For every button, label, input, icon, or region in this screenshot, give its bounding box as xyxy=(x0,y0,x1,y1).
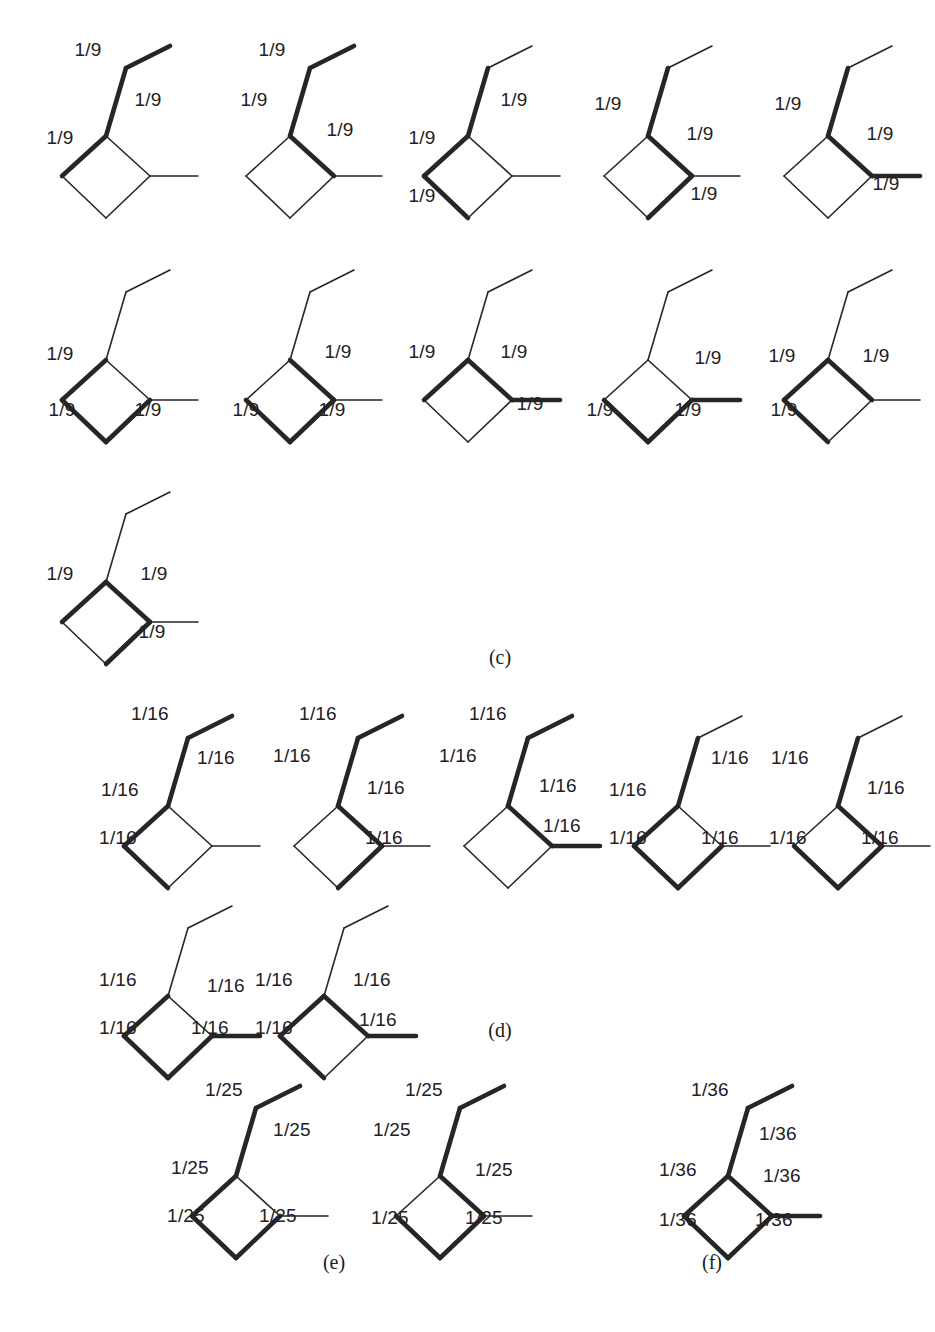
bond-ring_ll-thin xyxy=(464,846,508,888)
structure-c-9: 1/91/91/9 xyxy=(572,252,750,452)
bond-weight-label: 1/16 xyxy=(439,745,477,767)
bond-weight-label: 1/36 xyxy=(763,1165,801,1187)
bond-ring_ur-thin xyxy=(106,360,150,400)
bond-weight-label: 1/16 xyxy=(469,703,507,725)
bond-weight-label: 1/36 xyxy=(659,1159,697,1181)
bond-weight-label: 1/9 xyxy=(768,345,795,367)
bond-ring_lr-thin xyxy=(468,176,512,218)
bond-methyl-bold xyxy=(310,46,354,68)
bond-methyl-thin xyxy=(858,716,902,738)
bond-weight-label: 1/16 xyxy=(131,703,169,725)
bond-weight-label: 1/9 xyxy=(408,185,435,207)
bond-ring_ur-thin xyxy=(468,136,512,176)
bond-weight-label: 1/9 xyxy=(134,399,161,421)
structure-d-2: 1/161/161/161/16 xyxy=(262,698,440,898)
bond-weight-label: 1/36 xyxy=(659,1209,697,1231)
bond-methyl-thin xyxy=(698,716,742,738)
bond-weight-label: 1/36 xyxy=(755,1209,793,1231)
bond-ring_ll-bold xyxy=(634,846,678,888)
bond-ring_ur-bold xyxy=(106,582,150,622)
section-tag-e: (e) xyxy=(323,1251,345,1274)
bond-weight-label: 1/16 xyxy=(609,779,647,801)
bond-weight-label: 1/16 xyxy=(867,777,905,799)
bond-ring_ll-bold xyxy=(794,846,838,888)
bond-weight-label: 1/9 xyxy=(140,563,167,585)
bond-weight-label: 1/16 xyxy=(359,1009,397,1031)
bond-ring_ll-bold xyxy=(124,846,168,888)
skeleton-diagram xyxy=(572,252,750,452)
bond-weight-label: 1/25 xyxy=(273,1119,311,1141)
bond-ring_ul-thin xyxy=(604,136,648,176)
bond-ch2-thin xyxy=(290,292,310,360)
bond-weight-label: 1/9 xyxy=(686,123,713,145)
bond-weight-label: 1/9 xyxy=(48,399,75,421)
bond-ring_ul-thin xyxy=(464,806,508,846)
bond-weight-label: 1/9 xyxy=(774,93,801,115)
bond-weight-label: 1/16 xyxy=(861,827,899,849)
bond-methyl-thin xyxy=(344,906,388,928)
bond-ring_ur-thin xyxy=(168,806,212,846)
bond-ch2-bold xyxy=(838,738,858,806)
bond-ch2-bold xyxy=(168,738,188,806)
skeleton-diagram xyxy=(762,698,935,898)
bond-methyl-thin xyxy=(126,270,170,292)
bond-ring_lr-thin xyxy=(828,400,872,442)
bond-weight-label: 1/16 xyxy=(207,975,245,997)
bond-ch2-bold xyxy=(648,68,668,136)
structure-c-1: 1/91/91/9 xyxy=(30,28,208,228)
bond-weight-label: 1/9 xyxy=(232,399,259,421)
bond-ring_ll-thin xyxy=(62,176,106,218)
bond-ring_lr-thin xyxy=(508,846,552,888)
structure-d-5: 1/161/161/161/16 xyxy=(762,698,935,898)
bond-ring_ur-thin xyxy=(648,360,692,400)
bond-ring_lr-thin xyxy=(106,176,150,218)
bond-ch2-thin xyxy=(106,514,126,582)
bond-weight-label: 1/25 xyxy=(373,1119,411,1141)
bond-weight-label: 1/25 xyxy=(405,1079,443,1101)
structure-c-2: 1/91/91/9 xyxy=(214,28,392,228)
bond-weight-label: 1/16 xyxy=(701,827,739,849)
bond-weight-label: 1/16 xyxy=(365,827,403,849)
bond-weight-label: 1/36 xyxy=(691,1079,729,1101)
structure-c-7: 1/91/91/9 xyxy=(214,252,392,452)
bond-methyl-thin xyxy=(848,46,892,68)
bond-ring_ur-bold xyxy=(648,136,692,176)
bond-ch2-bold xyxy=(338,738,358,806)
bond-ring_ul-bold xyxy=(62,582,106,622)
bond-weight-label: 1/9 xyxy=(594,93,621,115)
bond-weight-label: 1/25 xyxy=(465,1207,503,1229)
structure-c-8: 1/91/91/9 xyxy=(392,252,570,452)
bond-weight-label: 1/9 xyxy=(408,127,435,149)
structure-d-7: 1/161/161/161/16 xyxy=(248,888,426,1088)
bond-weight-label: 1/9 xyxy=(138,621,165,643)
bond-methyl-thin xyxy=(310,270,354,292)
bond-weight-label: 1/16 xyxy=(543,815,581,837)
bond-methyl-bold xyxy=(528,716,572,738)
bond-weight-label: 1/16 xyxy=(99,969,137,991)
skeleton-diagram xyxy=(364,1068,542,1268)
bond-ring_ll-thin xyxy=(62,622,106,664)
bond-ring_ll-thin xyxy=(604,176,648,218)
bond-weight-label: 1/9 xyxy=(46,127,73,149)
skeleton-diagram xyxy=(262,698,440,898)
bond-ring_ur-thin xyxy=(106,136,150,176)
bond-ch2-thin xyxy=(168,928,188,996)
bond-ring_ul-thin xyxy=(246,360,290,400)
bond-ch2-bold xyxy=(468,68,488,136)
bond-weight-label: 1/16 xyxy=(609,827,647,849)
bond-ch2-bold xyxy=(106,68,126,136)
bond-ring_ul-thin xyxy=(294,806,338,846)
bond-methyl-bold xyxy=(748,1086,792,1108)
bond-ch2-thin xyxy=(468,292,488,360)
bond-ch2-bold xyxy=(828,68,848,136)
bond-ch2-bold xyxy=(678,738,698,806)
bond-weight-label: 1/9 xyxy=(872,173,899,195)
structure-c-6: 1/91/91/9 xyxy=(30,252,208,452)
bond-ch2-thin xyxy=(648,292,668,360)
skeleton-diagram xyxy=(214,252,392,452)
bond-methyl-bold xyxy=(188,716,232,738)
skeleton-diagram xyxy=(214,28,392,228)
bond-ring_ul-thin xyxy=(246,136,290,176)
bond-ch2-thin xyxy=(324,928,344,996)
bond-weight-label: 1/25 xyxy=(259,1205,297,1227)
